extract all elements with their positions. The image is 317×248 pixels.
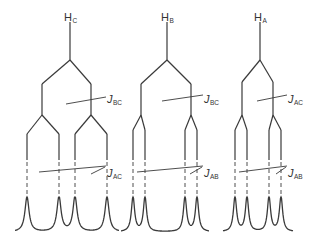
ha-branch-l2: [269, 115, 273, 130]
hb-jbc-leader: [162, 95, 203, 101]
hc-branch-l1: [42, 60, 70, 84]
hb-branch-l2: [185, 115, 191, 130]
hb-jab-pointer: [190, 167, 202, 174]
hc-branch-l2: [27, 115, 42, 134]
diagram-canvas: [0, 0, 317, 248]
ha-branch-l1: [242, 60, 260, 82]
hc-branch-l2: [91, 115, 107, 134]
hb-branch-l1: [167, 60, 191, 84]
hc-spectrum-multiplet: [15, 197, 119, 230]
hc-branch-l2: [75, 115, 91, 134]
ha-spectrum-multiplet: [223, 197, 293, 231]
coupling-label-ha-jab: JAB: [288, 164, 303, 180]
hc-jbc-leader: [66, 97, 106, 104]
label-hb: HB: [161, 8, 174, 24]
coupling-label-hb-jbc: JBC: [204, 90, 219, 106]
hb-spectrum-multiplet: [121, 197, 209, 231]
hb-branch-l2: [133, 115, 141, 130]
ha-branch-l1: [260, 60, 273, 82]
label-hc: HC: [64, 8, 77, 24]
hb-branch-l2: [141, 115, 145, 130]
coupling-label-ha-jac: JAC: [288, 90, 303, 106]
hc-jac-pointer: [91, 167, 105, 174]
ha-jac-leader: [257, 95, 287, 101]
label-ha: HA: [254, 8, 267, 24]
ha-branch-l2: [235, 115, 242, 130]
coupling-label-hc-jac: JAC: [107, 164, 122, 180]
splitting-tree-diagram: [0, 0, 317, 248]
ha-branch-l2: [242, 115, 247, 130]
coupling-label-hc-jbc: JBC: [107, 90, 122, 106]
ha-branch-l2: [273, 115, 281, 130]
hb-jab-leader: [137, 166, 203, 172]
hb-branch-l2: [191, 115, 197, 130]
hc-branch-l1: [70, 60, 91, 84]
hc-branch-l2: [42, 115, 59, 134]
hb-branch-l1: [141, 60, 167, 84]
coupling-label-hb-jab: JAB: [204, 164, 219, 180]
